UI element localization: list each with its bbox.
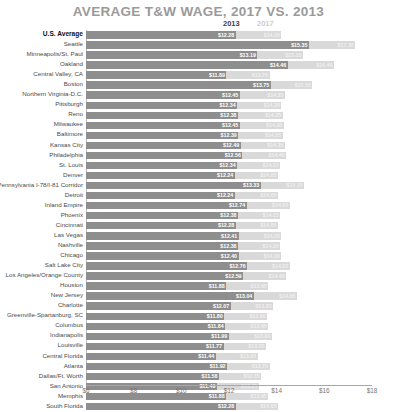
bar-value-2013: $13.33	[243, 182, 261, 189]
bar-group: $14.85$13.04	[86, 292, 372, 299]
chart-row: Baltimore$14.25$12.39	[86, 130, 372, 140]
bar-value-2013: $12.74	[229, 202, 247, 209]
bar-group: $14.40$12.56	[86, 152, 372, 159]
bar-value-2017: $14.15	[263, 162, 281, 169]
bar-value-2013: $14.46	[270, 62, 288, 69]
chart-row: Greenville-Spartanburg, SC$13.60$11.80	[86, 311, 372, 321]
bar-2013	[86, 302, 231, 309]
bar-value-2017: $14.05	[260, 192, 278, 199]
bar-value-2013: $11.80	[207, 313, 224, 320]
category-label: Cincinnati	[56, 221, 83, 229]
bar-value-2017: $13.85	[255, 303, 273, 310]
bar-2013	[86, 71, 226, 78]
category-label: Dallas/Ft. Worth	[39, 372, 83, 380]
bar-group: $14.30$12.45	[86, 122, 372, 129]
bar-group: $13.65$11.88	[86, 282, 372, 289]
bar-value-2017: $14.05	[260, 222, 278, 229]
bar-value-2017: $16.40	[316, 62, 334, 69]
chart-row: Salt Lake City$14.55$12.76	[86, 261, 372, 271]
bar-value-2017: $14.20	[264, 102, 282, 109]
bar-2013	[86, 323, 225, 330]
bar-value-2017: $14.25	[265, 112, 283, 119]
chart-row: Minneapolis/St. Paul$15.10$13.19	[86, 50, 372, 60]
chart-row: Reno$14.25$12.38	[86, 110, 372, 120]
chart-row: New Jersey$14.85$13.04	[86, 291, 372, 301]
bar-value-2017: $14.40	[268, 152, 286, 159]
category-label: Inland Empire	[45, 201, 83, 209]
bar-group: $14.20$12.34	[86, 102, 372, 109]
category-label: Phoenix	[61, 211, 83, 219]
bar-2013	[86, 112, 238, 119]
bar-value-2013: $13.19	[240, 52, 258, 59]
bar-group: $13.70$11.89	[86, 71, 372, 78]
chart-row: Detroit$14.05$12.24	[86, 191, 372, 201]
bar-value-2017: $14.20	[264, 253, 282, 260]
chart-row: Denver$14.05$12.24	[86, 171, 372, 181]
chart-row: Central Valley, CA$13.70$11.89	[86, 70, 372, 80]
chart-row: Louisville$13.55$11.77	[86, 341, 372, 351]
bar-2013	[86, 232, 239, 239]
bar-value-2013: $12.76	[229, 263, 247, 270]
bar-group: $13.70$11.92	[86, 363, 372, 370]
chart-row: St. Louis$14.15$12.34	[86, 161, 372, 171]
bar-group: $14.15$12.38	[86, 242, 372, 249]
bar-value-2013: $12.59	[225, 273, 243, 280]
x-tick-label: $16	[319, 387, 330, 394]
chart-row: Milwaukee$14.30$12.45	[86, 120, 372, 130]
bar-value-2017: $14.15	[263, 212, 281, 219]
category-label: Pittsburgh	[55, 100, 83, 108]
bar-value-2013: $11.92	[210, 363, 227, 370]
category-label: Central Valley, CA	[33, 70, 83, 78]
bar-value-2013: $12.28	[218, 32, 236, 39]
bar-value-2017: $14.30	[266, 122, 284, 129]
bar-2013	[86, 41, 309, 48]
bar-value-2013: $12.41	[221, 233, 239, 240]
bar-2013	[86, 192, 235, 199]
bar-value-2013: $11.99	[211, 333, 228, 340]
bar-group: $14.15$12.38	[86, 212, 372, 219]
category-label: Nashville	[58, 241, 83, 249]
bar-value-2017: $15.50	[295, 82, 313, 89]
bar-value-2017: $14.20	[264, 32, 282, 39]
bar-2013	[86, 313, 224, 320]
bar-group: $13.55$11.77	[86, 343, 372, 350]
bar-2013	[86, 343, 224, 350]
bar-2013	[86, 91, 240, 98]
chart-row: Boston$15.50$13.75	[86, 80, 372, 90]
chart-row: Las Vegas$14.20$12.41	[86, 231, 372, 241]
bar-group: $14.20$12.41	[86, 232, 372, 239]
bar-value-2017: $13.35	[243, 373, 261, 380]
chart-row: Phoenix$14.15$12.38	[86, 211, 372, 221]
chart-row: Houston$13.65$11.88	[86, 281, 372, 291]
bar-group: $13.85$12.07	[86, 302, 372, 309]
bar-2013	[86, 162, 237, 169]
x-axis-ticks: $6$8$10$12$14$16$18	[86, 387, 372, 401]
bar-2013	[86, 61, 288, 68]
category-label: Charlotte	[58, 301, 83, 309]
bar-value-2013: $12.34	[219, 102, 237, 109]
bar-group: $16.40$14.46	[86, 61, 372, 68]
bar-value-2013: $12.07	[213, 303, 231, 310]
bar-value-2017: $14.55	[272, 202, 290, 209]
bar-value-2013: $12.49	[223, 142, 241, 149]
bar-value-2017: $14.55	[272, 263, 290, 270]
bar-group: $14.05$12.28	[86, 222, 372, 229]
bar-value-2013: $11.84	[208, 323, 225, 330]
bar-2013	[86, 81, 271, 88]
bar-value-2013: $11.89	[209, 72, 226, 79]
bar-value-2013: $11.44	[198, 353, 215, 360]
category-label: Baltimore	[57, 130, 83, 138]
bar-2013	[86, 31, 236, 38]
chart-row: Charlotte$13.85$12.07	[86, 301, 372, 311]
chart-row: Atlanta$13.70$11.92	[86, 362, 372, 372]
chart-row: Nashville$14.15$12.38	[86, 241, 372, 251]
x-tick-label: $8	[130, 387, 137, 394]
chart-title: AVERAGE T&W WAGE, 2017 VS. 2013	[0, 4, 397, 19]
bar-2013	[86, 142, 241, 149]
bar-group: $14.20$12.40	[86, 252, 372, 259]
bar-2013	[86, 182, 261, 189]
bar-2013	[86, 222, 236, 229]
chart-row: Oakland$16.40$14.46	[86, 60, 372, 70]
chart-row: Northern Virginia-D.C.$14.35$12.45	[86, 90, 372, 100]
